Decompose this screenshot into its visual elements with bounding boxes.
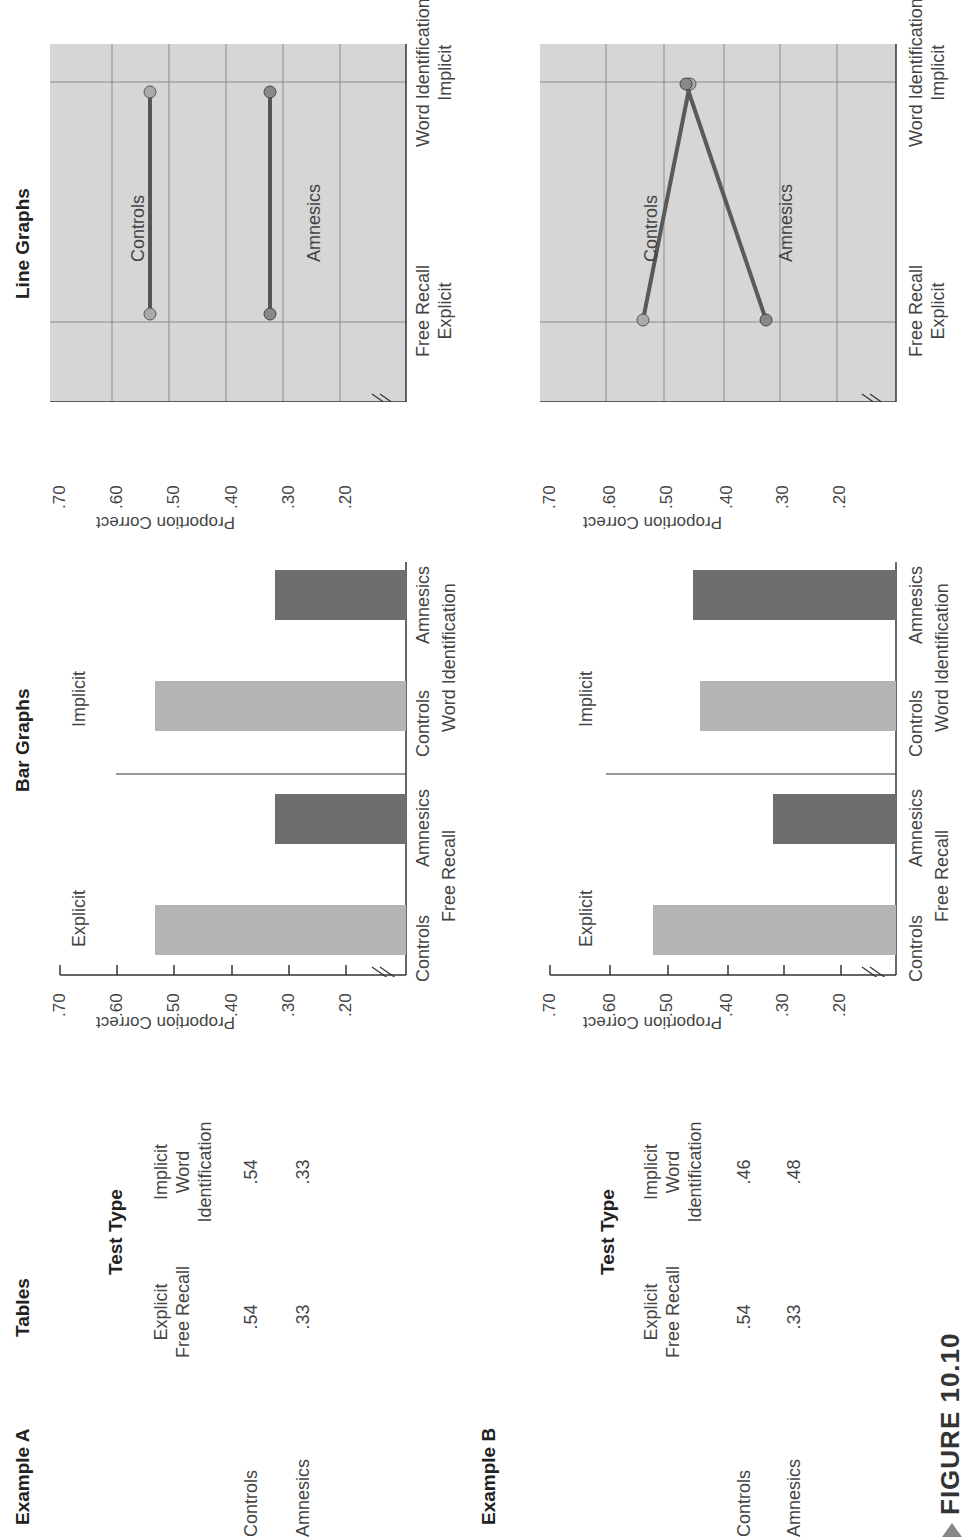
series-label-controls: Controls — [127, 195, 149, 262]
y-tick: .70 — [540, 485, 560, 509]
y-tick: .70 — [540, 993, 560, 1017]
col-line: Free Recall — [662, 1237, 684, 1387]
x-cat: Free Recall Explicit — [905, 265, 949, 357]
x-test: Free Recall — [931, 830, 953, 922]
x-cat: Amnesics — [905, 789, 927, 867]
x-line: Implicit — [927, 0, 949, 147]
cell-controls-explicit: .54 — [240, 1297, 262, 1337]
y-tick: .70 — [50, 485, 70, 509]
section-label-implicit: Implicit — [575, 671, 597, 727]
section-label-implicit: Implicit — [68, 671, 90, 727]
y-tick: .40 — [717, 993, 737, 1017]
x-cat: Controls — [905, 915, 927, 982]
cell-amnesics-implicit: .33 — [292, 1152, 314, 1192]
line-plot-area — [540, 42, 900, 402]
bar-amnesics-word-id — [693, 570, 896, 620]
col-line: Identification — [684, 1107, 706, 1237]
cell-controls-implicit: .46 — [733, 1152, 755, 1192]
table-col-implicit: Implicit Word Identification — [150, 1107, 216, 1237]
row-label-controls: Controls — [240, 1437, 262, 1537]
y-tick: .40 — [222, 993, 242, 1017]
column-title-line-graphs: Line Graphs — [12, 188, 34, 299]
cell-amnesics-explicit: .33 — [292, 1297, 314, 1337]
figure-caption: FIGURE 10.10 — [935, 1332, 966, 1537]
table-col-implicit: Implicit Word Identification — [640, 1107, 706, 1237]
line-plot-area — [50, 42, 410, 402]
bar-amnesics-free-recall — [275, 794, 406, 844]
table-header-test-type: Test Type — [105, 1189, 127, 1275]
row-label-amnesics: Amnesics — [292, 1437, 314, 1537]
y-tick: .20 — [336, 993, 356, 1017]
y-axis-label: Proportion Correct — [96, 512, 235, 532]
cell-controls-implicit: .54 — [240, 1152, 262, 1192]
y-tick: .60 — [600, 485, 620, 509]
y-tick: .30 — [773, 993, 793, 1017]
table-col-explicit: Explicit Free Recall — [640, 1237, 684, 1387]
col-line: Word — [662, 1107, 684, 1237]
col-line: Explicit — [640, 1237, 662, 1387]
y-tick: .60 — [107, 993, 127, 1017]
y-tick: .60 — [600, 993, 620, 1017]
y-tick: .20 — [830, 993, 850, 1017]
x-test: Free Recall — [438, 830, 460, 922]
x-cat: Controls — [412, 915, 434, 982]
series-label-amnesics: Amnesics — [303, 184, 325, 262]
x-cat: Word Identification Implicit — [412, 0, 456, 147]
x-cat: Amnesics — [905, 566, 927, 644]
bar-amnesics-free-recall — [773, 794, 896, 844]
table-col-explicit: Explicit Free Recall — [150, 1237, 194, 1387]
caption-triangle-icon — [942, 1523, 962, 1537]
row-label-controls: Controls — [733, 1437, 755, 1537]
x-cat: Controls — [412, 690, 434, 757]
series-label-controls: Controls — [640, 195, 662, 262]
example-a-title: Example A — [12, 1429, 34, 1525]
x-cat: Amnesics — [412, 566, 434, 644]
col-line: Free Recall — [172, 1237, 194, 1387]
col-line: Identification — [194, 1107, 216, 1237]
bar-controls-word-id — [700, 681, 896, 731]
x-line: Implicit — [434, 0, 456, 147]
col-line: Word — [172, 1107, 194, 1237]
x-line: Free Recall — [412, 265, 434, 357]
x-cat: Controls — [905, 690, 927, 757]
section-label-explicit: Explicit — [68, 890, 90, 947]
x-line: Free Recall — [905, 265, 927, 357]
bar-controls-free-recall — [653, 905, 896, 955]
bar-controls-free-recall — [155, 905, 406, 955]
x-cat: Free Recall Explicit — [412, 265, 456, 357]
cell-amnesics-implicit: .48 — [783, 1152, 805, 1192]
y-axis-label: Proportion Correct — [583, 512, 722, 532]
x-test: Word Identification — [438, 583, 460, 732]
x-test: Word Identification — [931, 583, 953, 732]
x-line: Explicit — [434, 265, 456, 357]
cell-controls-explicit: .54 — [733, 1297, 755, 1337]
caption-text: FIGURE 10.10 — [935, 1332, 965, 1515]
y-tick: .50 — [164, 485, 184, 509]
x-line: Word Identification — [412, 0, 434, 147]
x-line: Word Identification — [905, 0, 927, 147]
column-title-tables: Tables — [12, 1278, 34, 1337]
col-line: Explicit — [150, 1237, 172, 1387]
bar-plot-area — [50, 557, 410, 977]
y-tick: .20 — [336, 485, 356, 509]
x-cat: Word Identification Implicit — [905, 0, 949, 147]
table-header-test-type: Test Type — [597, 1189, 619, 1275]
y-tick: .30 — [279, 993, 299, 1017]
col-line: Implicit — [640, 1107, 662, 1237]
column-title-bar-graphs: Bar Graphs — [12, 689, 34, 792]
example-b-title: Example B — [478, 1428, 500, 1525]
bar-controls-word-id — [155, 681, 406, 731]
y-tick: .30 — [279, 485, 299, 509]
x-line: Explicit — [927, 265, 949, 357]
y-tick: .40 — [222, 485, 242, 509]
row-label-amnesics: Amnesics — [783, 1437, 805, 1537]
col-line: Implicit — [150, 1107, 172, 1237]
y-tick: .60 — [107, 485, 127, 509]
y-tick: .50 — [164, 993, 184, 1017]
series-label-amnesics: Amnesics — [775, 184, 797, 262]
y-tick: .70 — [50, 993, 70, 1017]
cell-amnesics-explicit: .33 — [783, 1297, 805, 1337]
section-label-explicit: Explicit — [575, 890, 597, 947]
y-tick: .40 — [717, 485, 737, 509]
bar-amnesics-word-id — [275, 570, 406, 620]
